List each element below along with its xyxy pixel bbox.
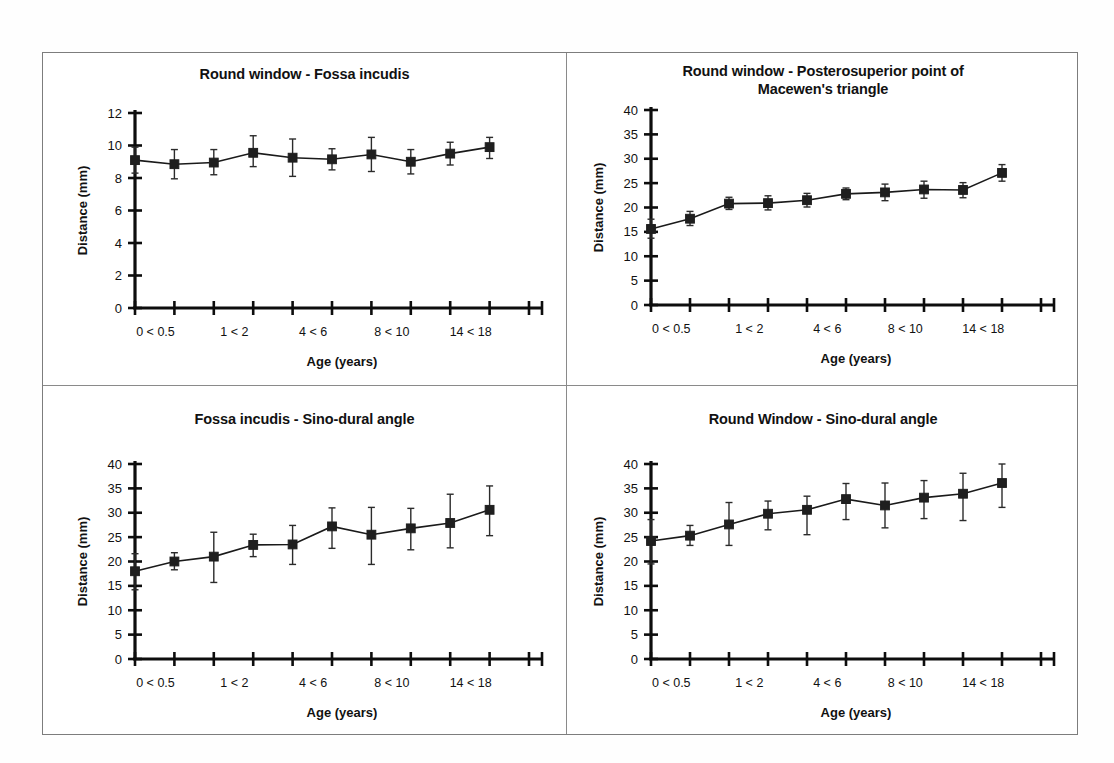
x-tick-label: 1 < 2 [735, 676, 763, 690]
data-point-marker [686, 214, 695, 223]
y-tick-label: 30 [108, 505, 122, 520]
data-point-marker [209, 552, 218, 561]
y-axis-title: Distance (mm) [591, 517, 606, 607]
y-tick-label: 8 [115, 171, 122, 186]
chart-canvas-d: 05101520253035400 < 0.51 < 24 < 68 < 101… [567, 386, 1079, 736]
y-axis-title: Distance (mm) [75, 517, 90, 607]
data-point-marker [998, 479, 1007, 488]
data-point-marker [920, 185, 929, 194]
y-tick-label: 40 [624, 457, 638, 472]
y-tick-label: 35 [108, 481, 122, 496]
x-tick-label: 4 < 6 [299, 325, 327, 339]
y-axis-title: Distance (mm) [75, 166, 90, 256]
figure-outer-frame: Round window - Fossa incudis 0246810120 … [42, 52, 1078, 735]
y-tick-label: 10 [108, 603, 122, 618]
y-tick-label: 20 [624, 554, 638, 569]
y-tick-label: 10 [108, 138, 122, 153]
data-point-marker [328, 522, 337, 531]
data-point-marker [881, 188, 890, 197]
data-point-marker [959, 186, 968, 195]
y-tick-label: 0 [631, 652, 638, 667]
data-point-marker [725, 199, 734, 208]
y-tick-label: 30 [624, 505, 638, 520]
data-point-marker [367, 530, 376, 539]
data-point-marker [288, 540, 297, 549]
y-tick-label: 15 [624, 578, 638, 593]
data-point-marker [725, 520, 734, 529]
series-line [651, 483, 1002, 541]
x-tick-label: 8 < 10 [888, 676, 923, 690]
series-line [135, 510, 490, 571]
data-point-marker [803, 505, 812, 514]
y-tick-label: 0 [115, 652, 122, 667]
x-tick-label: 1 < 2 [220, 325, 248, 339]
data-point-marker [881, 501, 890, 510]
error-bar [804, 496, 811, 535]
x-tick-label: 8 < 10 [888, 322, 923, 336]
data-point-marker [249, 148, 258, 157]
y-tick-label: 35 [624, 481, 638, 496]
y-tick-label: 30 [624, 151, 638, 166]
y-tick-label: 25 [624, 176, 638, 191]
x-axis-title: Age (years) [821, 351, 892, 366]
x-tick-label: 0 < 0.5 [652, 322, 691, 336]
data-point-marker [406, 157, 415, 166]
data-point-marker [170, 557, 179, 566]
data-point-marker [446, 149, 455, 158]
y-tick-label: 0 [631, 298, 638, 313]
x-tick-label: 0 < 0.5 [652, 676, 691, 690]
data-point-marker [647, 225, 656, 234]
y-tick-label: 2 [115, 268, 122, 283]
data-point-marker [170, 160, 179, 169]
y-tick-label: 20 [624, 200, 638, 215]
x-axis-title: Age (years) [307, 354, 378, 369]
x-tick-label: 8 < 10 [374, 325, 409, 339]
chart-canvas-c: 05101520253035400 < 0.51 < 24 < 68 < 101… [43, 386, 566, 736]
y-tick-label: 15 [108, 578, 122, 593]
x-tick-label: 4 < 6 [299, 676, 327, 690]
x-tick-label: 14 < 18 [962, 322, 1004, 336]
y-tick-label: 35 [624, 127, 638, 142]
data-point-marker [406, 524, 415, 533]
y-tick-label: 40 [108, 457, 122, 472]
x-tick-label: 14 < 18 [450, 325, 492, 339]
y-tick-label: 5 [631, 627, 638, 642]
data-point-marker [842, 495, 851, 504]
data-point-marker [647, 537, 656, 546]
x-tick-label: 0 < 0.5 [136, 676, 175, 690]
series-line [135, 147, 490, 164]
x-axis-title: Age (years) [821, 705, 892, 720]
chart-panel-d: Round Window - Sino-dural angle 05101520… [567, 386, 1079, 736]
data-point-marker [803, 196, 812, 205]
x-tick-label: 8 < 10 [374, 676, 409, 690]
chart-panel-a: Round window - Fossa incudis 0246810120 … [43, 53, 566, 385]
x-tick-label: 1 < 2 [220, 676, 248, 690]
data-point-marker [920, 493, 929, 502]
data-point-marker [209, 158, 218, 167]
x-axis-title: Age (years) [307, 705, 378, 720]
y-tick-label: 25 [624, 530, 638, 545]
y-tick-label: 25 [108, 530, 122, 545]
data-point-marker [288, 153, 297, 162]
data-point-marker [764, 509, 773, 518]
x-tick-label: 0 < 0.5 [136, 325, 175, 339]
series-line [651, 173, 1002, 229]
x-tick-label: 4 < 6 [813, 322, 841, 336]
y-tick-label: 6 [115, 203, 122, 218]
y-tick-label: 5 [631, 273, 638, 288]
x-tick-label: 1 < 2 [735, 322, 763, 336]
figure-root: Round window - Fossa incudis 0246810120 … [0, 0, 1114, 763]
y-tick-label: 5 [115, 627, 122, 642]
data-point-marker [131, 156, 140, 165]
x-tick-label: 4 < 6 [813, 676, 841, 690]
y-tick-label: 15 [624, 224, 638, 239]
chart-canvas-a: 0246810120 < 0.51 < 24 < 68 < 1014 < 18A… [43, 53, 566, 385]
data-point-marker [367, 150, 376, 159]
y-tick-label: 40 [624, 103, 638, 118]
y-axis-title: Distance (mm) [591, 163, 606, 253]
chart-panel-b: Round window - Posterosuperior point of … [567, 53, 1079, 385]
data-point-marker [131, 567, 140, 576]
y-tick-label: 10 [624, 249, 638, 264]
x-tick-label: 14 < 18 [450, 676, 492, 690]
y-tick-label: 0 [115, 301, 122, 316]
